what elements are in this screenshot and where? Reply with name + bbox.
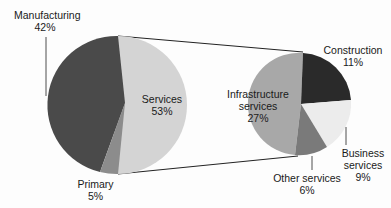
label-value: 6% [269,184,345,196]
label-text: Business [338,147,388,159]
label-value: 5% [73,190,118,202]
label-manufacturing: Manufacturing 42% [14,9,76,33]
label-infrastructure-services: Infrastructure services 27% [223,88,293,124]
label-text: Services [132,93,192,105]
label-value: 9% [338,171,388,183]
label-business-services: Business services 9% [338,147,388,183]
label-text: Manufacturing [14,9,76,21]
label-value: 53% [132,105,192,117]
label-text: Infrastructure [223,88,293,100]
label-services: Services 53% [132,93,192,117]
label-text: services [223,100,293,112]
label-text: Primary [73,178,118,190]
label-text: Construction [321,44,385,56]
label-text: Other services [269,172,345,184]
chart-root: Manufacturing 42% Services 53% Primary 5… [0,0,391,208]
label-text: services [338,159,388,171]
label-primary: Primary 5% [73,178,118,202]
label-value: 42% [14,21,76,33]
label-value: 27% [223,112,293,124]
label-value: 11% [321,56,385,68]
label-construction: Construction 11% [321,44,385,68]
label-other-services: Other services 6% [269,172,345,196]
